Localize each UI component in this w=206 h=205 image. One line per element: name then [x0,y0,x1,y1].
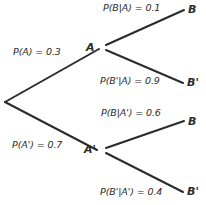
node-label-A: A [86,42,95,53]
probability-label-A: P(A) = 0.3 [13,47,61,57]
probability-label-B-given-A-prime: P(B|A') = 0.6 [101,108,161,118]
branch-Aprime-to-B [106,121,184,148]
leaf-label-B-2: B [188,116,196,127]
leaf-label-B-prime-1: B' [187,77,199,88]
probability-label-B-prime-given-A: P(B'|A) = 0.9 [100,76,160,86]
branch-A-to-B [106,10,184,45]
node-label-A-prime: A' [84,144,96,155]
tree-branches [0,0,206,205]
probability-tree-diagram: A A' B B' B B' P(A) = 0.3 P(A') = 0.7 P(… [0,0,206,205]
probability-label-A-prime: P(A') = 0.7 [12,140,62,150]
probability-label-B-prime-given-A-prime: P(B'|A') = 0.4 [100,187,162,197]
leaf-label-B-1: B [188,4,196,15]
leaf-label-B-prime-2: B' [187,186,199,197]
probability-label-B-given-A: P(B|A) = 0.1 [103,3,160,13]
